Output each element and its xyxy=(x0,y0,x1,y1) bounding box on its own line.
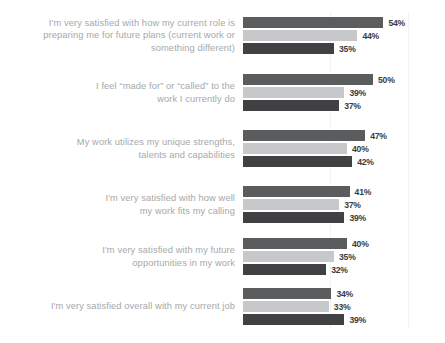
bar-series_1 xyxy=(243,74,373,85)
bar-stack: 54%44%35% xyxy=(243,17,445,54)
bar-value-label: 39% xyxy=(349,213,366,223)
chart-groups: I'm very satisfied with how my current r… xyxy=(0,0,445,343)
bar-value-label: 40% xyxy=(352,144,369,154)
bar-series_2 xyxy=(243,199,339,210)
bar-value-label: 32% xyxy=(331,265,348,275)
bar-row: 42% xyxy=(243,156,374,167)
bar-value-label: 47% xyxy=(370,131,387,141)
bar-value-label: 34% xyxy=(336,289,353,299)
bar-row: 33% xyxy=(243,301,350,312)
category-label: I'm very satisfied with how my current r… xyxy=(0,17,243,54)
bar-stack: 47%40%42% xyxy=(243,130,445,167)
bar-group: I'm very satisfied with my future opport… xyxy=(0,238,445,275)
bar-row: 37% xyxy=(243,100,361,111)
bar-series_3 xyxy=(243,43,334,54)
bar-row: 39% xyxy=(243,212,366,223)
bar-row: 47% xyxy=(243,130,387,141)
category-label: I'm very satisfied with how well my work… xyxy=(0,192,243,216)
bar-series_3 xyxy=(243,264,326,275)
bar-series_3 xyxy=(243,100,339,111)
bar-value-label: 54% xyxy=(388,18,405,28)
bar-group: I feel “made for” or “called” to the wor… xyxy=(0,74,445,111)
bar-row: 34% xyxy=(243,288,353,299)
bar-row: 37% xyxy=(243,199,361,210)
bar-series_2 xyxy=(243,301,329,312)
bar-row: 39% xyxy=(243,314,366,325)
bar-group: I'm very satisfied with how my current r… xyxy=(0,17,445,54)
bar-group: My work utilizes my unique strengths, ta… xyxy=(0,130,445,167)
bar-row: 40% xyxy=(243,143,369,154)
bar-row: 50% xyxy=(243,74,395,85)
bar-value-label: 37% xyxy=(344,101,361,111)
bar-series_3 xyxy=(243,314,344,325)
category-label: I'm very satisfied overall with my curre… xyxy=(0,300,243,312)
bar-row: 41% xyxy=(243,186,371,197)
bar-series_2 xyxy=(243,30,357,41)
bar-value-label: 40% xyxy=(352,239,369,249)
bar-value-label: 35% xyxy=(339,44,356,54)
bar-row: 39% xyxy=(243,87,366,98)
bar-stack: 50%39%37% xyxy=(243,74,445,111)
bar-value-label: 44% xyxy=(362,31,379,41)
bar-row: 54% xyxy=(243,17,405,28)
bar-value-label: 39% xyxy=(349,315,366,325)
bar-series_3 xyxy=(243,156,352,167)
bar-series_2 xyxy=(243,251,334,262)
bar-row: 44% xyxy=(243,30,379,41)
bar-row: 35% xyxy=(243,251,356,262)
bar-stack: 41%37%39% xyxy=(243,186,445,223)
bar-series_2 xyxy=(243,143,347,154)
bar-value-label: 37% xyxy=(344,200,361,210)
bar-row: 32% xyxy=(243,264,348,275)
bar-group: I'm very satisfied overall with my curre… xyxy=(0,288,445,325)
bar-row: 40% xyxy=(243,238,369,249)
grouped-bar-chart: I'm very satisfied with how my current r… xyxy=(0,0,445,343)
bar-series_1 xyxy=(243,17,383,28)
category-label: My work utilizes my unique strengths, ta… xyxy=(0,136,243,160)
bar-series_3 xyxy=(243,212,344,223)
bar-value-label: 35% xyxy=(339,252,356,262)
bar-row: 35% xyxy=(243,43,356,54)
bar-series_1 xyxy=(243,238,347,249)
bar-group: I'm very satisfied with how well my work… xyxy=(0,186,445,223)
bar-series_1 xyxy=(243,130,365,141)
category-label: I feel “made for” or “called” to the wor… xyxy=(0,80,243,104)
bar-value-label: 41% xyxy=(355,187,372,197)
bar-stack: 34%33%39% xyxy=(243,288,445,325)
bar-series_1 xyxy=(243,288,331,299)
bar-value-label: 42% xyxy=(357,157,374,167)
bar-value-label: 33% xyxy=(334,302,351,312)
bar-value-label: 39% xyxy=(349,88,366,98)
bar-value-label: 50% xyxy=(378,75,395,85)
bar-series_2 xyxy=(243,87,344,98)
bar-series_1 xyxy=(243,186,350,197)
bar-stack: 40%35%32% xyxy=(243,238,445,275)
category-label: I'm very satisfied with my future opport… xyxy=(0,244,243,268)
